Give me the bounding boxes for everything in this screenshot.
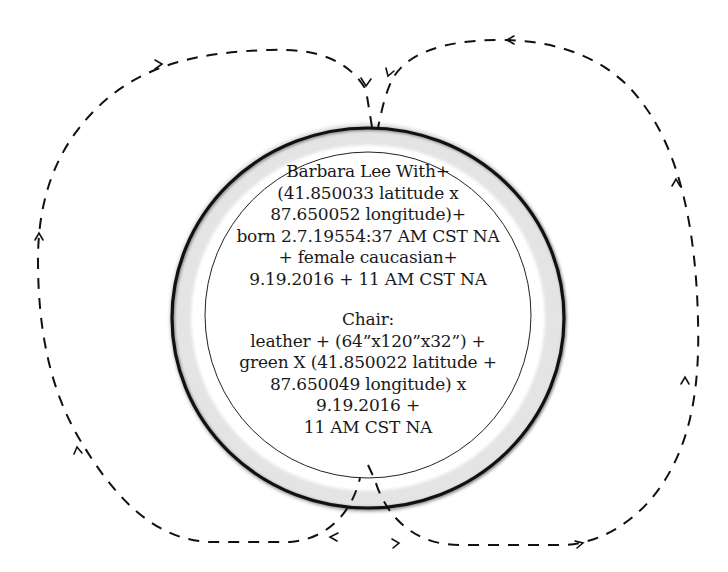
arrow-icon [330,533,338,541]
arrow-icon [681,377,689,384]
chair-line: 11 AM CST NA [208,417,528,439]
chair-line: leather + (64”x120”x32”) + [208,331,528,353]
person-line: 9.19.2016 + 11 AM CST NA [208,269,528,291]
chair-line: 9.19.2016 + [208,395,528,417]
chair-line: 87.650049 longitude) x [208,374,528,396]
person-line: (41.850033 latitude x [208,183,528,205]
person-line: + female caucasian+ [208,247,528,269]
arrow-icon [392,539,399,548]
chair-line: Chair: [208,309,528,331]
person-line: 87.650052 longitude)+ [208,204,528,226]
person-line: born 2.7.19554:37 AM CST NA [208,226,528,248]
person-description: Barbara Lee With+ (41.850033 latitude x … [208,161,528,290]
arrow-icon [386,68,394,76]
person-line: Barbara Lee With+ [208,161,528,183]
chair-description: Chair: leather + (64”x120”x32”) + green … [208,309,528,438]
chair-line: green X (41.850022 latitude + [208,352,528,374]
arrow-icon [74,447,82,454]
